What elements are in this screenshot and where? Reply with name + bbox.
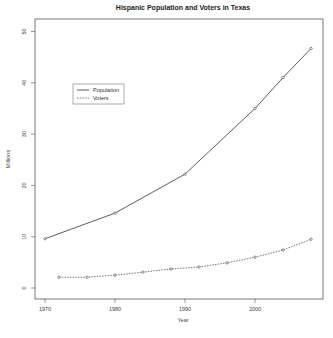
data-point-voters [198,266,200,268]
data-point-voters [310,238,312,240]
data-point-voters [226,262,228,264]
x-tick-label: 1970 [39,306,51,312]
data-point-voters [58,276,60,278]
data-point-population [44,238,46,240]
plot-area [35,19,323,299]
data-point-population [114,212,116,214]
data-point-voters [282,249,284,251]
x-axis-label: Year [177,317,188,323]
series-line-voters [59,239,311,277]
y-tick-label: 50 [21,28,27,34]
data-point-voters [86,276,88,278]
x-tick-label: 1980 [109,306,121,312]
data-point-voters [114,274,116,276]
data-point-voters [170,268,172,270]
y-tick-label: 40 [21,80,27,86]
y-tick-label: 0 [21,286,27,289]
y-tick-label: 10 [21,234,27,240]
legend: Population Voters [73,84,124,104]
x-tick-label: 1990 [179,306,191,312]
data-point-population [254,107,256,109]
chart-title: Hispanic Population and Voters in Texas [116,4,250,12]
x-tick-label: 2000 [249,306,261,312]
series-line-population [45,48,311,238]
x-axis: 1970198019902000 [39,299,261,312]
y-tick-label: 30 [21,131,27,137]
data-point-population [310,47,312,49]
data-point-voters [142,271,144,273]
data-point-voters [254,256,256,258]
legend-voters-label: Voters [93,95,109,101]
data-point-population [282,76,284,78]
line-chart: Hispanic Population and Voters in Texas … [0,0,333,338]
series-layer [44,47,312,278]
y-axis: 01020304050 [21,28,35,289]
legend-population-label: Population [93,87,119,93]
y-tick-label: 20 [21,182,27,188]
y-axis-label: Millions [5,150,11,169]
data-point-population [184,173,186,175]
